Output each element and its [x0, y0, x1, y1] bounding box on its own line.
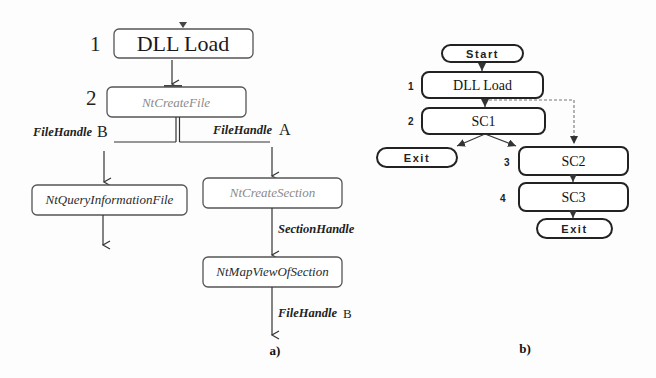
node-label: Exit	[404, 152, 431, 164]
step-number-2-b: 2	[408, 116, 414, 127]
node-dll-load-a[interactable]: DLL Load	[114, 29, 253, 58]
node-label: NtCreateFile	[141, 95, 210, 110]
edge-label-filehandle-b: FileHandle	[32, 125, 92, 139]
node-sc1[interactable]: SC1	[422, 108, 545, 134]
panel-a: 1 DLL Load 2 NtCreateFile FileHandle B F…	[32, 22, 355, 358]
node-label: DLL Load	[137, 31, 230, 56]
node-start[interactable]: Start	[442, 45, 523, 62]
node-label: DLL Load	[453, 78, 512, 93]
node-label: NtQueryInformationFile	[45, 192, 174, 207]
edge-sc1-to-sc2	[485, 134, 516, 146]
node-nt-create-file[interactable]: NtCreateFile	[107, 87, 246, 117]
edge-label-suffix-b-out: B	[343, 306, 352, 321]
caption-b: b)	[519, 341, 531, 356]
step-number-2: 2	[86, 86, 97, 110]
caption-a: a)	[270, 343, 281, 358]
panel-b: Start 1 DLL Load 2 SC1 Exit 3 SC2	[377, 45, 628, 356]
node-label: NtCreateSection	[229, 185, 315, 200]
node-exit-bottom[interactable]: Exit	[537, 219, 612, 238]
node-label: SC1	[471, 114, 495, 129]
incoming-arrow-icon	[179, 22, 187, 28]
node-label: Exit	[561, 223, 588, 235]
node-label: Start	[466, 48, 499, 60]
edge-sc1-to-exit	[457, 134, 485, 146]
node-nt-query-information-file[interactable]: NtQueryInformationFile	[32, 185, 187, 215]
figure-canvas: 1 DLL Load 2 NtCreateFile FileHandle B F…	[0, 0, 656, 378]
node-nt-create-section[interactable]: NtCreateSection	[203, 178, 342, 208]
step-number-4-b: 4	[500, 193, 506, 204]
step-number-1-b: 1	[408, 81, 414, 92]
node-dll-load-b[interactable]: DLL Load	[422, 72, 543, 98]
node-label: SC3	[561, 190, 585, 205]
edge-label-filehandle-b-out: FileHandle	[277, 306, 337, 320]
node-exit-left[interactable]: Exit	[377, 148, 457, 167]
edge-label-section-handle: SectionHandle	[278, 222, 355, 236]
node-sc3[interactable]: SC3	[519, 183, 628, 211]
step-number-3-b: 3	[504, 157, 510, 168]
edge-label-suffix-a: A	[279, 121, 291, 138]
edge-label-filehandle-a: FileHandle	[212, 123, 272, 137]
node-label: SC2	[561, 154, 585, 169]
step-number-1: 1	[90, 32, 101, 56]
node-label: NtMapViewOfSection	[215, 264, 328, 279]
node-sc2[interactable]: SC2	[519, 147, 628, 175]
edge-label-suffix-b: B	[97, 123, 108, 140]
node-nt-map-view-of-section[interactable]: NtMapViewOfSection	[203, 257, 342, 287]
